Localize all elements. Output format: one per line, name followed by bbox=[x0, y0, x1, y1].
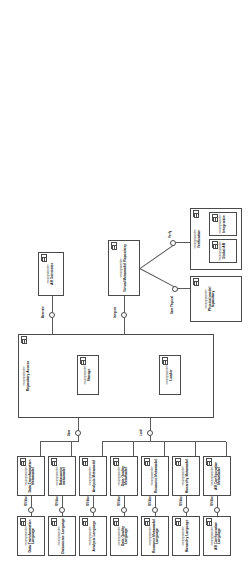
interface-mm-access-ab[interactable] bbox=[214, 507, 220, 513]
integrate-to-vmr bbox=[124, 296, 125, 312]
repository-access-label-block: <<component>> Repository Access bbox=[24, 339, 30, 413]
repository-to-generate bbox=[52, 318, 53, 334]
component-icon bbox=[20, 519, 26, 526]
component-label: Physical model repository bbox=[209, 282, 216, 316]
interface-label-load: Load bbox=[140, 430, 143, 436]
component-virtual-metamodel-repository[interactable]: <<component>> Virtual Metamodel Reposito… bbox=[108, 240, 140, 296]
component-label: AB Generator bbox=[51, 263, 55, 285]
component-icon bbox=[175, 459, 181, 466]
component-label: Data Quality Metamodel bbox=[122, 458, 129, 494]
interface-label-verify: Verify bbox=[169, 231, 172, 238]
component-hierarchy-metamodel[interactable]: <<component>> Hierarchy Metamodel bbox=[172, 456, 200, 496]
connector-ab bbox=[217, 496, 218, 516]
component-physical-model-repository[interactable]: <<component>> Physical model repository bbox=[190, 276, 242, 322]
component-label: Integration bbox=[223, 215, 227, 233]
component-datasource-language[interactable]: <<component>> Datasource Language bbox=[48, 516, 76, 556]
interface-integrate[interactable] bbox=[121, 312, 127, 318]
stub-dq-right bbox=[133, 442, 134, 456]
verification-label-block: <<component>> Verification bbox=[195, 213, 201, 265]
component-ab-generator[interactable]: <<component>> AB Generator bbox=[38, 252, 64, 296]
component-icon bbox=[162, 358, 168, 365]
component-icon bbox=[111, 243, 117, 250]
stub-an-right bbox=[102, 442, 103, 456]
interface-label-save-physical: Save Physical bbox=[171, 296, 174, 314]
component-data-quality-metamodel[interactable]: <<component>> Data Quality Metamodel bbox=[110, 456, 138, 496]
component-repository-access[interactable]: <<component>> Repository Access <<compon… bbox=[18, 334, 214, 418]
stub-dt-right bbox=[40, 442, 41, 456]
interface-load[interactable] bbox=[147, 430, 153, 436]
save-to-repository bbox=[78, 418, 79, 430]
load-to-repository bbox=[150, 418, 151, 430]
connector-dt bbox=[31, 496, 32, 516]
component-data-transformation-metamodel[interactable]: <<component>> Data Transformation Metamo… bbox=[17, 456, 45, 496]
component-icon bbox=[206, 519, 212, 526]
component-label: AB Configuration Language bbox=[215, 518, 222, 554]
component-label: Data Transformation Metamodel bbox=[29, 458, 36, 494]
component-integration[interactable]: <<component>> Integration bbox=[209, 212, 237, 236]
component-resource-metamodel[interactable]: <<component>> Resource Metamodel bbox=[141, 456, 169, 496]
component-icon bbox=[41, 255, 47, 262]
component-ab-configuration-language[interactable]: <<component>> AB Configuration Language bbox=[203, 516, 231, 556]
bus-save-to-lolli bbox=[78, 436, 79, 442]
component-datasource-metamodel[interactable]: <<component>> Datasource metamodel bbox=[48, 456, 76, 496]
component-data-quality-language[interactable]: <<component>> Data Quality Language bbox=[110, 516, 138, 556]
component-icon bbox=[82, 519, 88, 526]
connector-an bbox=[93, 496, 94, 516]
interface-mm-access-rm[interactable] bbox=[152, 507, 158, 513]
repository-to-integrate bbox=[124, 318, 125, 334]
component-icon bbox=[206, 459, 212, 466]
component-ab-configuration-metamodel[interactable]: <<component>> AB Configuration Metamodel bbox=[203, 456, 231, 496]
connector-hi bbox=[186, 496, 187, 516]
component-loader[interactable]: <<component>> Loader bbox=[159, 355, 181, 395]
component-icon bbox=[82, 459, 88, 466]
interface-generate[interactable] bbox=[49, 312, 55, 318]
interface-mm-access-an[interactable] bbox=[90, 507, 96, 513]
diagram-frame: <<component>> Data Transformation Langua… bbox=[0, 0, 252, 562]
component-verification[interactable]: <<component>> Verification <<component>>… bbox=[190, 208, 242, 270]
component-hierarchy-language[interactable]: <<component>> Hierarchy Language bbox=[172, 516, 200, 556]
interface-save-physical[interactable] bbox=[172, 286, 178, 292]
component-icon bbox=[80, 358, 86, 365]
component-label: Global AB bbox=[223, 243, 227, 259]
component-icon bbox=[175, 519, 181, 526]
interface-save[interactable] bbox=[75, 430, 81, 436]
component-label: Hierarchy Language bbox=[186, 520, 190, 553]
component-icon bbox=[113, 519, 119, 526]
interface-label-generate: Generate bbox=[42, 306, 45, 318]
interface-label-save: Save bbox=[68, 430, 71, 436]
component-icon bbox=[51, 519, 57, 526]
stub-ab-right bbox=[226, 442, 227, 456]
component-label: Data Quality Language bbox=[122, 518, 129, 554]
component-analysis-metamodel[interactable]: <<component>> Analysis Metamodel bbox=[79, 456, 107, 496]
component-label: Storage bbox=[88, 369, 92, 382]
stub-hi-right bbox=[195, 442, 196, 456]
bus-save bbox=[40, 441, 78, 442]
interface-mm-access-dq[interactable] bbox=[121, 507, 127, 513]
stub-rm-right bbox=[164, 442, 165, 456]
component-resource-metamodel-language[interactable]: <<component>> Resource Metamodel Languag… bbox=[141, 516, 169, 556]
component-icon bbox=[20, 459, 26, 466]
component-diagram-canvas: <<component>> Data Transformation Langua… bbox=[0, 0, 252, 562]
physical-model-repository-label-block: <<component>> Physical model repository bbox=[206, 281, 216, 317]
interface-mm-access-dt[interactable] bbox=[28, 507, 34, 513]
verify-to-verification bbox=[176, 242, 190, 243]
component-label: Data Transformation Language bbox=[29, 518, 36, 554]
component-storage[interactable]: <<component>> Storage bbox=[77, 355, 99, 395]
component-icon bbox=[193, 211, 199, 218]
interface-mm-access-ds[interactable] bbox=[59, 507, 65, 513]
component-label: AB Configuration Metamodel bbox=[215, 458, 222, 494]
bus-load bbox=[102, 441, 226, 442]
component-icon bbox=[193, 279, 199, 286]
connector-rm bbox=[155, 496, 156, 516]
interface-mm-access-hi[interactable] bbox=[183, 507, 189, 513]
component-global-ab[interactable]: <<component>> Global AB bbox=[209, 239, 237, 263]
bus-load-to-lolli bbox=[150, 436, 151, 442]
component-data-transformation-language[interactable]: <<component>> Data Transformation Langua… bbox=[17, 516, 45, 556]
component-analysis-language[interactable]: <<component>> Analysis Language bbox=[79, 516, 107, 556]
connector-ds bbox=[62, 496, 63, 516]
save-physical-to-pmr bbox=[178, 288, 190, 289]
component-icon bbox=[21, 337, 27, 344]
interface-verify[interactable] bbox=[170, 240, 176, 246]
component-label: Resource Metamodel Language bbox=[153, 518, 160, 554]
generate-to-ab-generator bbox=[52, 296, 53, 312]
